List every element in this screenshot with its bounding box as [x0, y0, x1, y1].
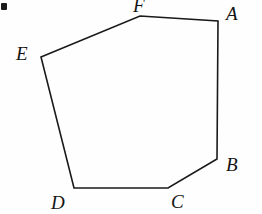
- vertex-label-a: A: [226, 4, 238, 23]
- vertex-label-f: F: [133, 0, 145, 15]
- vertex-label-d: D: [51, 193, 65, 212]
- hexagon-outline: [41, 16, 218, 188]
- geometry-figure: F A B C D E: [0, 0, 262, 214]
- vertex-label-b: B: [226, 155, 238, 174]
- vertex-label-e: E: [16, 44, 28, 63]
- vertex-label-c: C: [171, 192, 184, 211]
- scan-speck-artifact: [1, 3, 7, 10]
- hexagon-drawing: [0, 0, 262, 214]
